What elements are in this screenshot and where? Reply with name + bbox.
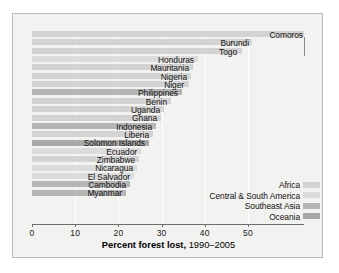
legend-swatch-central-south-america bbox=[303, 192, 320, 198]
x-axis-line bbox=[32, 224, 304, 225]
x-axis-title-range: 1990–2005 bbox=[189, 240, 236, 250]
x-tick-label-0: 0 bbox=[17, 228, 47, 238]
legend-label-africa: Africa bbox=[279, 180, 300, 190]
x-tick-50 bbox=[248, 224, 249, 227]
x-tick-label-10: 10 bbox=[60, 228, 90, 238]
chart-panel: ComorosBurundiTogoHondurasMauritaniaNige… bbox=[12, 13, 323, 258]
x-axis-title: Percent forest lost, 1990–2005 bbox=[13, 240, 324, 250]
legend-swatch-oceania bbox=[303, 213, 320, 219]
x-tick-0 bbox=[32, 224, 33, 227]
legend-swatch-africa bbox=[303, 182, 320, 188]
legend-label-southeast-asia: Southeast Asia bbox=[245, 201, 300, 211]
x-tick-label-50: 50 bbox=[233, 228, 263, 238]
bar-label-comoros: Comoros bbox=[269, 30, 303, 40]
x-tick-40 bbox=[205, 224, 206, 227]
x-tick-20 bbox=[118, 224, 119, 227]
chart-screenshot: ComorosBurundiTogoHondurasMauritaniaNige… bbox=[0, 0, 339, 273]
x-axis-title-bold: Percent forest lost, bbox=[102, 240, 186, 250]
x-tick-10 bbox=[75, 224, 76, 227]
bar-label-myanmar: Myanmar bbox=[87, 188, 122, 198]
legend-label-central-south-america: Central & South America bbox=[209, 191, 300, 201]
legend-label-oceania: Oceania bbox=[269, 212, 300, 222]
bar-togo bbox=[32, 48, 242, 54]
bar-label-togo: Togo bbox=[219, 47, 237, 57]
plot-area: ComorosBurundiTogoHondurasMauritaniaNige… bbox=[13, 14, 324, 259]
gridline-40 bbox=[205, 30, 206, 225]
x-tick-label-20: 20 bbox=[103, 228, 133, 238]
bar-comoros bbox=[32, 31, 304, 37]
leader-line-comoros bbox=[304, 37, 305, 56]
x-tick-label-40: 40 bbox=[190, 228, 220, 238]
x-tick-30 bbox=[162, 224, 163, 227]
x-tick-label-30: 30 bbox=[147, 228, 177, 238]
bar-burundi bbox=[32, 39, 252, 45]
legend-swatch-southeast-asia bbox=[303, 203, 320, 209]
